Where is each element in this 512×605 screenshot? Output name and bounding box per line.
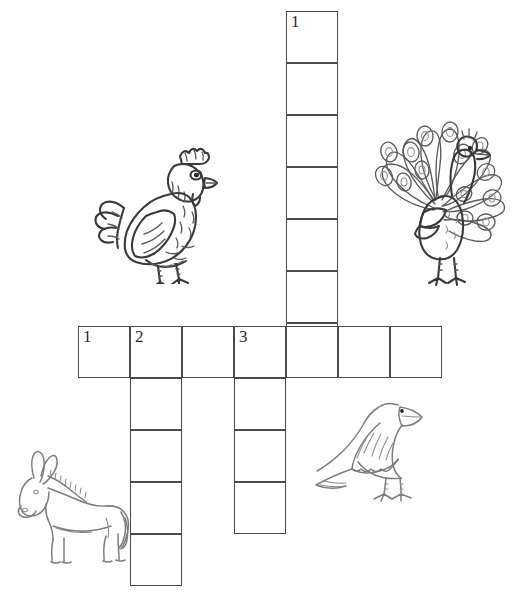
crossword-cell[interactable]: [286, 167, 338, 219]
crossword-puzzle: 1123: [0, 0, 512, 605]
crossword-cell[interactable]: 2: [130, 326, 182, 378]
crossword-cell[interactable]: [130, 482, 182, 534]
crossword-cell[interactable]: [130, 378, 182, 430]
clue-number: 1: [291, 12, 300, 31]
crossword-cell[interactable]: [286, 219, 338, 271]
peacock-illustration: [364, 98, 510, 288]
crossword-cell[interactable]: 3: [234, 326, 286, 378]
crossword-cell[interactable]: [234, 378, 286, 430]
crossword-cell[interactable]: [130, 430, 182, 482]
crossword-cell[interactable]: [286, 63, 338, 115]
donkey-illustration: [8, 448, 134, 564]
crow-illustration: [302, 385, 438, 511]
clue-number: 1: [83, 327, 92, 346]
crossword-cell[interactable]: [286, 271, 338, 323]
crossword-cell[interactable]: [338, 326, 390, 378]
crossword-cell[interactable]: [182, 326, 234, 378]
crossword-cell[interactable]: [234, 482, 286, 534]
crossword-cell[interactable]: 1: [78, 326, 130, 378]
crossword-cell[interactable]: [234, 430, 286, 482]
crossword-cell[interactable]: 1: [286, 11, 338, 63]
crossword-cell[interactable]: [390, 326, 442, 378]
hen-illustration: [88, 138, 224, 284]
crossword-cell[interactable]: [286, 115, 338, 167]
clue-number: 3: [239, 327, 248, 346]
crossword-cell[interactable]: [286, 326, 338, 378]
crossword-cell[interactable]: [130, 534, 182, 586]
clue-number: 2: [135, 327, 144, 346]
